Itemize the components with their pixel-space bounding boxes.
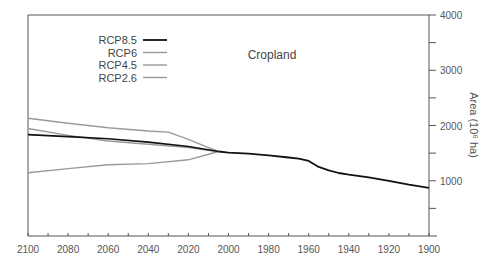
x-tick-label: 2060 [97, 244, 120, 255]
x-tick-label: 2080 [57, 244, 80, 255]
x-tick-label: 1980 [257, 244, 280, 255]
series-line-rcp8-5 [28, 135, 219, 152]
x-tick-label: 1900 [418, 244, 441, 255]
x-tick-label: 2000 [217, 244, 240, 255]
y-axis-label: Area (10⁶ ha) [468, 92, 480, 158]
y-axis: 1000200030004000 [429, 10, 463, 236]
x-tick-label: 1940 [338, 244, 361, 255]
legend-label: RCP4.5 [98, 59, 137, 71]
legend: RCP8.5RCP6RCP4.5RCP2.6 [98, 34, 167, 84]
x-tick-label: 1960 [298, 244, 321, 255]
series-line-rcp2-6 [28, 152, 219, 173]
legend-label: RCP2.6 [98, 72, 137, 84]
y-tick-label: 1000 [440, 176, 463, 187]
historical-line [219, 152, 430, 188]
x-tick-label: 1920 [378, 244, 401, 255]
y-tick-label: 2000 [440, 121, 463, 132]
x-tick-label: 2100 [17, 244, 40, 255]
cropland-area-chart: 2100208020602040202020001980196019401920… [0, 0, 501, 265]
x-tick-label: 2020 [177, 244, 200, 255]
y-tick-label: 3000 [440, 65, 463, 76]
x-tick-label: 2040 [137, 244, 160, 255]
chart-title: Cropland [248, 48, 297, 62]
series-layer [28, 118, 429, 188]
legend-label: RCP6 [108, 47, 137, 59]
x-axis: 2100208020602040202020001980196019401920… [17, 233, 441, 255]
legend-label: RCP8.5 [98, 34, 137, 46]
y-tick-label: 4000 [440, 10, 463, 21]
